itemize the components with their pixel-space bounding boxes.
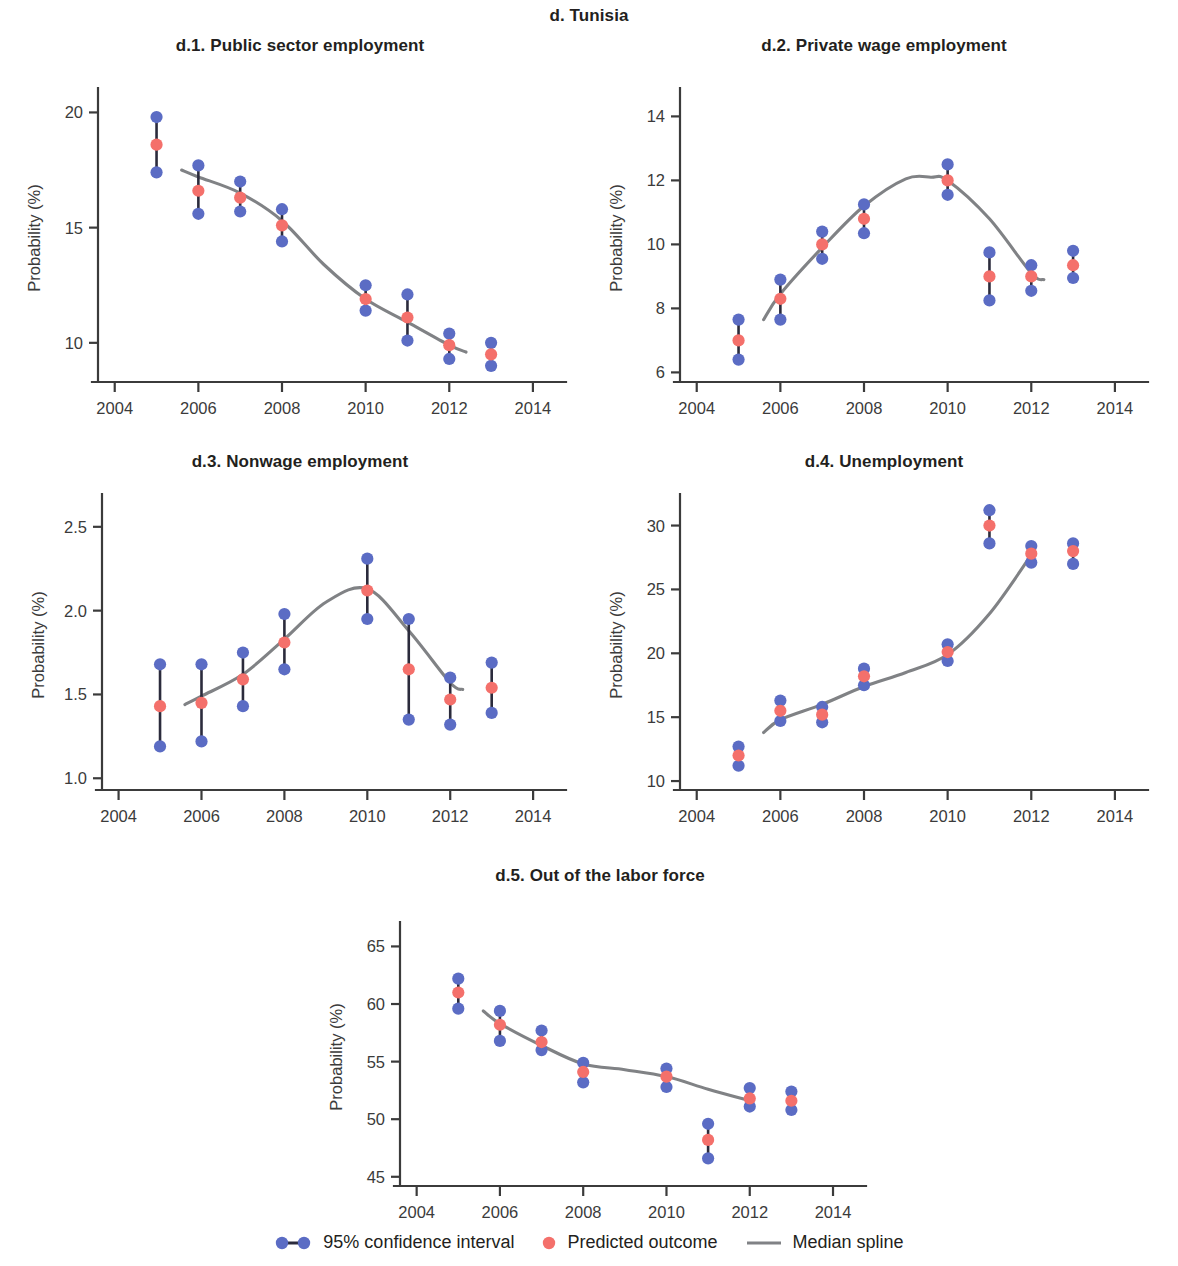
x-axis-tick-label: 2006 [482,1203,519,1221]
confidence-interval-upper-dot [732,314,744,326]
predicted-outcome-dot [816,709,828,721]
predicted-outcome-dot [732,749,744,761]
x-axis-tick-label: 2012 [1013,807,1050,825]
y-axis-tick-label: 25 [647,580,665,598]
x-axis-tick-label: 2010 [349,807,386,825]
predicted-outcome-dot [361,584,373,596]
legend-item-predicted-outcome: Predicted outcome [540,1232,717,1253]
confidence-interval-lower-dot [401,334,413,346]
y-axis-tick-label: 45 [367,1168,385,1186]
y-axis-tick-label: 8 [656,299,665,317]
confidence-interval-upper-dot [278,608,290,620]
panel-d3: d.3. Nonwage employment 1.01.52.02.52004… [10,452,590,844]
predicted-outcome-dot [535,1036,547,1048]
confidence-interval-lower-dot [1067,272,1079,284]
y-axis-tick-label: 2.0 [64,602,87,620]
y-axis-tick-label: 1.0 [64,769,87,787]
confidence-interval-lower-dot [494,1035,506,1047]
panel-d4: d.4. Unemployment 1015202530200420062008… [598,452,1170,844]
predicted-outcome-dot [660,1070,672,1082]
predicted-outcome-dot [942,174,954,186]
y-axis-tick-label: 15 [647,708,665,726]
x-axis-tick-label: 2004 [398,1203,435,1221]
confidence-interval-lower-dot [403,713,415,725]
predicted-outcome-dot [192,185,204,197]
panel-d3-plot: 1.01.52.02.5200420062008201020122014Prob… [10,452,590,844]
predicted-outcome-dot [858,213,870,225]
confidence-interval-upper-dot [1067,245,1079,257]
confidence-interval-upper-dot [150,111,162,123]
confidence-interval-upper-dot [486,657,498,669]
predicted-outcome-dot [360,293,372,305]
predicted-outcome-dot [276,219,288,231]
predicted-outcome-dot [485,348,497,360]
legend-item-median-spline: Median spline [744,1232,904,1253]
confidence-interval-upper-dot [983,246,995,258]
confidence-interval-upper-dot [444,672,456,684]
median-spline-line [483,1011,749,1101]
confidence-interval-upper-dot [485,337,497,349]
figure-tunisia-panels: d. Tunisia d.1. Public sector employment… [0,0,1178,1266]
confidence-interval-upper-dot [154,658,166,670]
predicted-outcome-dot [154,700,166,712]
confidence-interval-lower-dot [983,294,995,306]
predicted-outcome-dot [486,682,498,694]
confidence-interval-upper-dot [443,328,455,340]
confidence-interval-lower-dot [774,314,786,326]
x-axis-tick-label: 2008 [846,807,883,825]
predicted-outcome-dot [983,270,995,282]
confidence-interval-lower-dot [276,235,288,247]
median-spline-line [182,170,466,352]
confidence-interval-lower-dot [361,613,373,625]
confidence-interval-upper-dot [234,175,246,187]
x-axis-tick-label: 2006 [762,399,799,417]
predicted-outcome-dot [816,238,828,250]
legend-label-confidence-interval: 95% confidence interval [323,1232,514,1253]
confidence-interval-upper-dot [1025,259,1037,271]
predicted-outcome-dot [401,311,413,323]
predicted-outcome-dot [858,670,870,682]
x-axis-tick-label: 2012 [731,1203,768,1221]
confidence-interval-lower-dot [983,537,995,549]
x-axis-tick-label: 2006 [183,807,220,825]
confidence-interval-lower-dot [150,166,162,178]
predicted-outcome-dot [785,1095,797,1107]
x-axis-tick-label: 2014 [1097,399,1134,417]
predicted-outcome-dot [444,693,456,705]
predicted-outcome-dot [983,519,995,531]
confidence-interval-upper-dot [452,973,464,985]
y-axis-tick-label: 10 [647,772,665,790]
median-spline-line [764,555,1032,733]
confidence-interval-lower-dot [452,1003,464,1015]
confidence-interval-lower-dot [1025,285,1037,297]
predicted-outcome-dot [1025,270,1037,282]
predicted-outcome-dot [577,1066,589,1078]
y-axis-title: Probability (%) [607,184,625,291]
legend-item-confidence-interval: 95% confidence interval [274,1232,514,1253]
y-axis-tick-label: 14 [647,107,665,125]
median-spline-line [764,176,1044,320]
legend-label-predicted-outcome: Predicted outcome [567,1232,717,1253]
x-axis-tick-label: 2014 [515,399,552,417]
confidence-interval-lower-dot [154,740,166,752]
confidence-interval-lower-dot [195,735,207,747]
dot-marker-icon [540,1235,558,1251]
x-axis-tick-label: 2004 [678,399,715,417]
x-axis-tick-label: 2008 [565,1203,602,1221]
confidence-interval-upper-dot [361,553,373,565]
confidence-interval-lower-dot [732,354,744,366]
y-axis-title: Probability (%) [25,184,43,291]
y-axis-tick-label: 1.5 [64,685,87,703]
x-axis-tick-label: 2004 [96,399,133,417]
predicted-outcome-dot [443,339,455,351]
y-axis-tick-label: 20 [65,103,83,121]
confidence-interval-lower-dot [702,1152,714,1164]
x-axis-tick-label: 2010 [929,807,966,825]
predicted-outcome-dot [1025,548,1037,560]
predicted-outcome-dot [702,1134,714,1146]
confidence-interval-lower-dot [192,208,204,220]
confidence-interval-upper-dot [858,198,870,210]
confidence-interval-lower-dot [858,227,870,239]
confidence-interval-upper-dot [401,288,413,300]
y-axis-title: Probability (%) [607,591,625,698]
